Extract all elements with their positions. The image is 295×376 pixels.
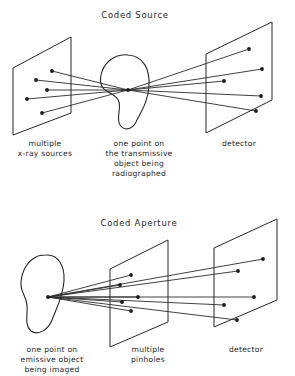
source-dot-3 [45,88,49,92]
panel-coded-source: Coded Sourcemultiplex-ray sourcesone poi… [13,10,272,178]
source-dot-4 [25,97,29,101]
panel-coded-aperture: Coded Apertureone point onemissive objec… [21,218,277,374]
detector-dot-1 [261,257,265,261]
caption-detector-2: detector [229,345,264,354]
plane-pinhole-array [110,240,168,347]
caption-transmissive-object-line-1: one point on [114,139,165,148]
detector-dot-5 [254,109,258,113]
caption-detector-line-1: detector [222,139,257,148]
caption-emissive-object-line-3: being imaged [24,365,79,374]
detector-dot-3 [222,79,226,83]
ray-path-5 [48,297,237,320]
plane-detector [206,22,272,133]
diagram-canvas: Coded Sourcemultiplex-ray sourcesone poi… [0,0,295,376]
emissive-object-blob [21,255,64,333]
pinhole-dot-5 [129,309,133,313]
caption-detector-2-line-1: detector [229,345,264,354]
detector-dot-1 [247,47,251,51]
detector-dot-2 [260,67,264,71]
ray-bundle-coded-aperture [48,259,263,320]
detector-dot-5 [235,318,239,322]
caption-transmissive-object-line-2: the transmissive [105,149,172,158]
pinhole-dot-2 [118,283,122,287]
caption-multiple-xray-sources: multiplex-ray sources [18,139,72,158]
transmissive-object-blob [101,55,150,129]
caption-detector: detector [222,139,257,148]
emission-point [46,295,50,299]
caption-emissive-object: one point onemissive objectbeing imaged [21,345,84,374]
source-dot-5 [40,111,44,115]
panel-title-coded-aperture: Coded Aperture [101,218,178,228]
panel-title-coded-source: Coded Source [101,10,168,20]
caption-transmissive-object: one point onthe transmissiveobject being… [105,139,172,178]
caption-multiple-xray-sources-line-1: multiple [28,139,61,148]
detector-dot-2 [236,269,240,273]
source-dot-2 [34,78,38,82]
caption-transmissive-object-line-4: radiographed [112,169,166,178]
caption-emissive-object-line-2: emissive object [21,355,84,364]
caption-multiple-xray-sources-line-2: x-ray sources [18,149,72,158]
caption-multiple-pinholes-line-1: multiple [131,345,164,354]
detector-dot-4 [259,94,263,98]
plane-xray-source-array [13,37,71,135]
pinhole-dot-4 [120,300,124,304]
detector-dot-4 [222,303,226,307]
object-focus-point [126,88,130,92]
caption-emissive-object-line-1: one point on [27,345,78,354]
caption-multiple-pinholes-line-2: pinholes [131,355,165,364]
ray-bundle-coded-source [27,49,262,113]
caption-transmissive-object-line-3: object being [114,159,164,168]
pinhole-dot-1 [129,273,133,277]
detector-dot-3 [252,295,256,299]
coded-imaging-figure: Coded Sourcemultiplex-ray sourcesone poi… [0,0,295,376]
ray-path-2 [48,271,238,297]
caption-multiple-pinholes: multiplepinholes [131,345,165,364]
pinhole-dot-3 [136,295,140,299]
source-dot-1 [50,69,54,73]
